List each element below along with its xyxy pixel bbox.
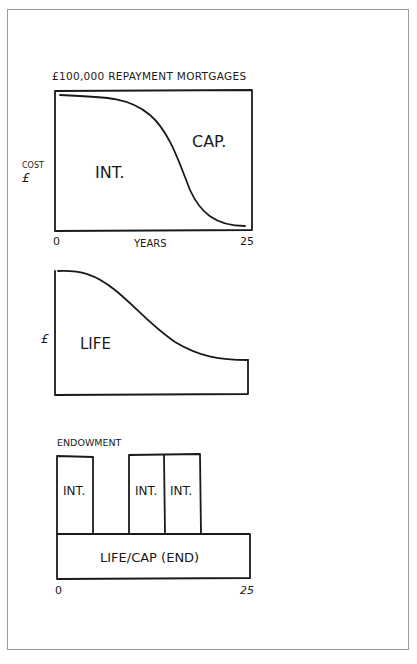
x-start-label: 0	[53, 235, 60, 248]
int-region-label: INT.	[95, 163, 125, 182]
repayment-frame	[55, 90, 252, 231]
int-bar-2-label: INT.	[135, 484, 157, 498]
life-pound-label: £	[41, 332, 49, 346]
cap-region-label: CAP.	[192, 132, 226, 151]
int-bar-1-label: INT.	[63, 484, 85, 498]
repayment-chart	[55, 90, 252, 231]
figure-canvas: £100,000 REPAYMENT MORTGAGES COST £ INT.…	[0, 0, 417, 664]
pound-label: £	[22, 171, 30, 185]
endowment-title: ENDOWMENT	[57, 437, 122, 448]
x-end-label: 25	[240, 235, 254, 248]
int-bar-divider	[164, 455, 165, 534]
life-frame	[55, 271, 248, 395]
life-region-label: LIFE	[80, 335, 111, 353]
endow-x-end: 25	[240, 584, 254, 597]
int-bar-3-label: INT.	[170, 484, 192, 498]
interest-capital-curve	[60, 95, 245, 226]
cost-label: COST	[22, 161, 44, 170]
endow-x-start: 0	[55, 584, 62, 597]
repayment-title: £100,000 REPAYMENT MORTGAGES	[52, 70, 246, 82]
base-label: LIFE/CAP (END)	[100, 550, 199, 565]
years-label: YEARS	[133, 238, 167, 249]
life-chart	[55, 271, 248, 395]
